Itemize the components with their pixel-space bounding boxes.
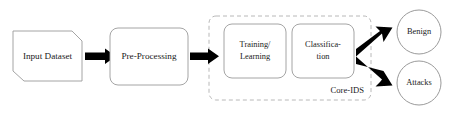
classification-shape bbox=[292, 24, 354, 78]
node-input-dataset: Input Dataset bbox=[13, 31, 82, 81]
attacks-label: Attacks bbox=[406, 78, 432, 87]
classification-label-line2: tion bbox=[316, 52, 330, 61]
ids-pipeline-diagram: Core-IDS Input Dataset Pre-Processing Tr… bbox=[0, 0, 454, 113]
arrow-classification-to-attacks bbox=[356, 57, 393, 87]
node-benign: Benign bbox=[397, 10, 441, 54]
node-attacks: Attacks bbox=[397, 61, 441, 105]
arrow-preprocessing-to-coreids bbox=[190, 49, 219, 64]
training-learning-label-line1: Training/ bbox=[240, 40, 272, 49]
pre-processing-label: Pre-Processing bbox=[121, 51, 177, 61]
core-ids-label: Core-IDS bbox=[331, 85, 365, 95]
arrow-shape-2 bbox=[190, 49, 219, 64]
node-pre-processing: Pre-Processing bbox=[110, 28, 188, 85]
classification-label-line1: Classifica- bbox=[305, 40, 341, 49]
benign-label: Benign bbox=[407, 27, 432, 36]
node-classification: Classifica- tion bbox=[292, 24, 354, 78]
node-training-learning: Training/ Learning bbox=[224, 24, 286, 78]
arrow-shape-3 bbox=[356, 27, 393, 57]
input-dataset-label: Input Dataset bbox=[23, 51, 73, 61]
diagram-canvas: Core-IDS Input Dataset Pre-Processing Tr… bbox=[0, 0, 454, 113]
arrow-classification-to-benign bbox=[356, 27, 393, 57]
arrow-shape-4 bbox=[356, 57, 393, 87]
training-learning-label-line2: Learning bbox=[240, 52, 271, 61]
training-learning-shape bbox=[224, 24, 286, 78]
